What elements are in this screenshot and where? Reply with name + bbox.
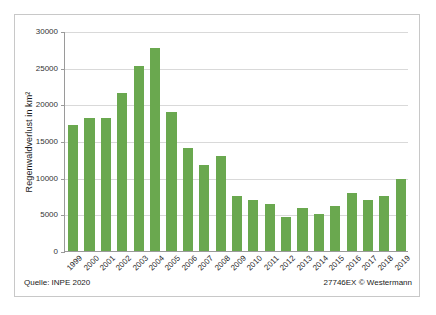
y-axis-tick-label: 30000 (36, 28, 58, 36)
bar (166, 112, 176, 251)
y-axis-tick (61, 252, 65, 253)
credit-note: 27746EX © Westermann (324, 278, 412, 287)
bar (183, 148, 193, 251)
y-axis-tick-label: 5000 (40, 211, 58, 219)
bar-slot: 2006 (180, 32, 196, 251)
bar (330, 206, 340, 251)
bar (216, 156, 226, 251)
bar (84, 118, 94, 251)
bar-slot: 2014 (311, 32, 327, 251)
bar-series: 1999200020012002200320042005200620072008… (65, 32, 408, 251)
bar-slot: 2012 (278, 32, 294, 251)
bar (265, 204, 275, 251)
y-axis-tick-label: 15000 (36, 138, 58, 146)
bar-slot: 2016 (343, 32, 359, 251)
source-note: Quelle: INPE 2020 (24, 278, 90, 287)
bar-slot: 2003 (131, 32, 147, 251)
bar-slot: 2019 (393, 32, 409, 251)
bar-slot: 2004 (147, 32, 163, 251)
plot-area: 050001000015000200002500030000 199920002… (64, 32, 408, 252)
bar (281, 217, 291, 251)
bar (396, 179, 406, 251)
bar-slot: 2011 (262, 32, 278, 251)
bar-slot: 2007 (196, 32, 212, 251)
bar (68, 125, 78, 251)
y-axis-tick-label: 10000 (36, 175, 58, 183)
y-axis-tick-label: 25000 (36, 65, 58, 73)
bar-slot: 2010 (245, 32, 261, 251)
y-axis-tick-label: 20000 (36, 101, 58, 109)
bar-slot: 2002 (114, 32, 130, 251)
bar-slot: 2001 (98, 32, 114, 251)
bar (232, 196, 242, 251)
bar-slot: 2009 (229, 32, 245, 251)
bar (101, 118, 111, 251)
y-axis-title: Regenwaldverlust in km² (22, 32, 36, 252)
bar (297, 208, 307, 251)
bar-slot: 2008 (212, 32, 228, 251)
bar-slot: 2018 (376, 32, 392, 251)
bar-slot: 2015 (327, 32, 343, 251)
bar-slot: 2000 (81, 32, 97, 251)
bar (314, 214, 324, 251)
bar-slot: 2005 (163, 32, 179, 251)
bar (347, 193, 357, 251)
bar-slot: 2013 (294, 32, 310, 251)
y-axis-title-text: Regenwaldverlust in km² (24, 92, 34, 193)
bar (379, 196, 389, 251)
bar-slot: 1999 (65, 32, 81, 251)
bar-slot: 2017 (360, 32, 376, 251)
bar (150, 48, 160, 251)
bar (134, 66, 144, 251)
bar (199, 165, 209, 251)
bar (117, 93, 127, 251)
bar (248, 200, 258, 251)
chart-page: Regenwaldverlust in km² 0500010000150002… (0, 0, 436, 315)
y-axis-tick-label: 0 (54, 248, 58, 256)
bar (363, 200, 373, 251)
